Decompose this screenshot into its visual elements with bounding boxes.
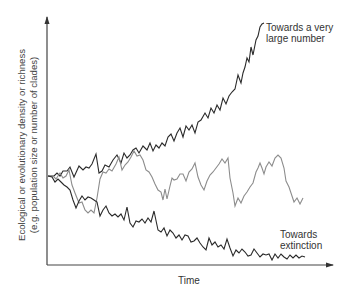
series-group bbox=[48, 23, 305, 260]
y-axis-label: Ecological or evolutionary density or ri… bbox=[16, 49, 39, 241]
series-line-upward bbox=[48, 23, 264, 177]
series-line-fluctuating bbox=[48, 151, 303, 213]
annotation-extinction-line2: extinction bbox=[280, 240, 322, 251]
chart-canvas bbox=[0, 0, 347, 299]
y-axis-label-line1: Ecological or evolutionary density or ri… bbox=[16, 49, 28, 241]
annotation-extinction-line1: Towards bbox=[280, 229, 322, 240]
axes bbox=[47, 17, 333, 265]
annotation-large-number: Towards a very large number bbox=[266, 22, 333, 44]
x-axis-label: Time bbox=[178, 275, 200, 286]
annotation-extinction: Towards extinction bbox=[280, 229, 322, 251]
y-axis-label-line2: (e.g. population size or number of clade… bbox=[27, 49, 39, 241]
annotation-large-number-line2: large number bbox=[266, 33, 333, 44]
series-line-downward bbox=[48, 176, 305, 260]
annotation-large-number-line1: Towards a very bbox=[266, 22, 333, 33]
